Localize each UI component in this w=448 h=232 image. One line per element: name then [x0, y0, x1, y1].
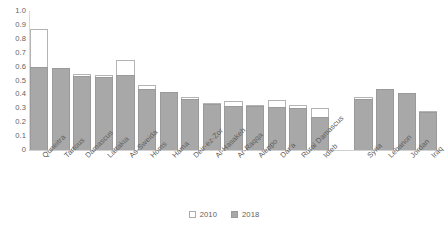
bar-2018[interactable]: [30, 67, 48, 150]
legend-swatch-2010-icon: [189, 211, 196, 218]
legend-label-2010: 2010: [200, 211, 217, 219]
legend-item-2018[interactable]: 2018: [231, 211, 259, 219]
bar-group[interactable]: [311, 11, 329, 150]
bar-2018[interactable]: [289, 108, 307, 150]
legend-swatch-2018-icon: [231, 211, 238, 218]
legend-label-2018: 2018: [242, 211, 259, 219]
bar-group[interactable]: [160, 11, 178, 150]
bar-2018[interactable]: [376, 89, 394, 150]
legend-item-2010[interactable]: 2010: [189, 211, 217, 219]
bar-2018[interactable]: [246, 106, 264, 150]
bar-2018[interactable]: [52, 68, 70, 150]
bar-2018[interactable]: [268, 107, 286, 150]
bar-2018[interactable]: [116, 75, 134, 150]
bar-group[interactable]: [73, 11, 91, 150]
bars-container: [30, 11, 448, 150]
bar-2018[interactable]: [181, 99, 199, 150]
bar-group[interactable]: [398, 11, 416, 150]
y-axis: 1.00.90.80.70.60.50.40.30.20.10: [0, 0, 30, 232]
y-axis-tick-label: 0.1: [2, 132, 26, 140]
y-axis-tick-label: 0.2: [2, 118, 26, 126]
bar-2018[interactable]: [224, 106, 242, 150]
y-axis-tick-label: 0.9: [2, 21, 26, 29]
bar-2018[interactable]: [73, 76, 91, 150]
bar-group[interactable]: [52, 11, 70, 150]
y-axis-tick-label: 0.8: [2, 35, 26, 43]
bar-group[interactable]: [224, 11, 242, 150]
bar-group[interactable]: [268, 11, 286, 150]
bar-group[interactable]: [138, 11, 156, 150]
bar-group[interactable]: [181, 11, 199, 150]
bar-group[interactable]: [95, 11, 113, 150]
plot-area: [30, 11, 448, 150]
bar-group[interactable]: [203, 11, 221, 150]
y-axis-tick-label: 1.0: [2, 7, 26, 15]
bar-group[interactable]: [376, 11, 394, 150]
bar-2018[interactable]: [160, 92, 178, 150]
bar-group[interactable]: [246, 11, 264, 150]
bar-group[interactable]: [354, 11, 372, 150]
y-axis-tick-label: 0.7: [2, 49, 26, 57]
bar-2018[interactable]: [203, 104, 221, 150]
bar-2018[interactable]: [95, 77, 113, 150]
bar-group[interactable]: [289, 11, 307, 150]
y-axis-tick-label: 0.3: [2, 105, 26, 113]
y-axis-tick-label: 0: [2, 146, 26, 154]
bar-group[interactable]: [419, 11, 437, 150]
x-axis-baseline: [29, 150, 443, 151]
bar-2018[interactable]: [419, 112, 437, 150]
bar-2018[interactable]: [138, 89, 156, 150]
bar-2018[interactable]: [311, 117, 329, 150]
bar-2018[interactable]: [354, 99, 372, 150]
y-axis-tick-label: 0.4: [2, 91, 26, 99]
chart-legend: 2010 2018: [0, 211, 448, 219]
bar-group[interactable]: [116, 11, 134, 150]
bar-2018[interactable]: [398, 93, 416, 150]
y-axis-tick-label: 0.6: [2, 63, 26, 71]
bar-group[interactable]: [30, 11, 48, 150]
y-axis-tick-label: 0.5: [2, 77, 26, 85]
bar-chart: 1.00.90.80.70.60.50.40.30.20.10 Quneitra…: [0, 0, 448, 232]
